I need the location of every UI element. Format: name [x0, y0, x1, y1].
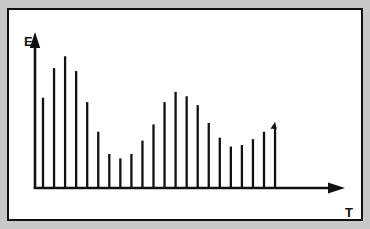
x-axis-label: T — [345, 206, 353, 219]
stem-chart — [9, 10, 361, 219]
y-axis-label: E — [24, 35, 33, 48]
chart-frame: E T — [7, 8, 363, 221]
x-axis-arrow-icon — [328, 183, 345, 194]
figure-container: E T — [0, 0, 370, 229]
stem-tip-flag-icon — [271, 122, 277, 129]
stem-layer — [43, 56, 277, 188]
